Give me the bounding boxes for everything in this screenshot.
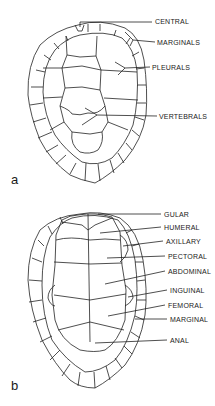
label-pleurals: PLEURALS [152,64,190,71]
label-pectoral: PECTORAL [168,253,207,260]
label-gular: GULAR [164,211,189,218]
label-abdominal: ABDOMINAL [168,268,211,275]
label-marginal: MARGINAL [170,316,208,323]
label-inguinal: INGUINAL [170,287,205,294]
label-marginals: MARGINALS [157,39,200,46]
label-femoral: FEMORAL [168,302,203,309]
carapace-drawing [28,22,147,183]
turtle-shell-diagram [0,0,215,406]
label-axillary: AXILLARY [166,238,201,245]
label-humeral: HUMERAL [164,224,200,231]
label-anal: ANAL [170,337,189,344]
label-vertebrals: VERTEBRALS [159,113,207,120]
panel-label-a: a [11,172,18,187]
label-central: CENTRAL [155,18,189,25]
plastron-drawing [28,213,146,388]
plastron-leader-lines [95,214,167,343]
panel-label-b: b [11,378,18,393]
